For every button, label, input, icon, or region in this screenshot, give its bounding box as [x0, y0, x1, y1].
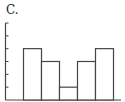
histogram-chart — [0, 0, 125, 102]
histogram-bar — [24, 49, 42, 100]
histogram-bar — [42, 62, 60, 101]
histogram-bar — [78, 62, 96, 101]
histogram-bar — [96, 49, 114, 100]
chart-bars — [24, 49, 114, 100]
histogram-bar — [60, 87, 78, 100]
